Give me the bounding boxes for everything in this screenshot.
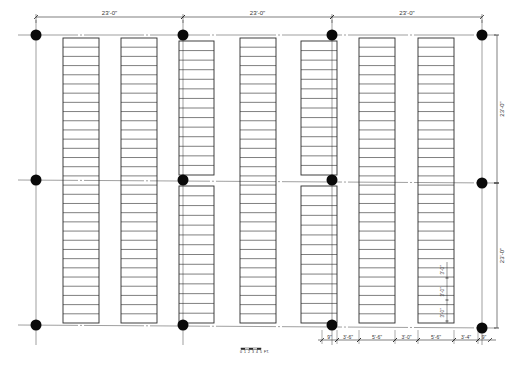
dimension-label-bottom: 3'-0" xyxy=(402,334,412,340)
column-marker xyxy=(178,175,189,186)
shelf-spacing-label: 3'-0" xyxy=(440,287,445,296)
dimension-label-bottom: 5'-6" xyxy=(372,334,382,340)
column-marker xyxy=(477,178,488,189)
stack-s5 xyxy=(301,186,337,323)
column-grid-lines xyxy=(18,20,496,345)
column-marker xyxy=(327,320,338,331)
scale-bar-unit: FT. xyxy=(264,350,269,354)
column-marker xyxy=(327,175,338,186)
column-marker xyxy=(31,175,42,186)
dimension-label-top: 23'-0" xyxy=(102,10,117,16)
scale-bar: 012345FT. xyxy=(240,348,269,354)
dimension-lines: 23'-0"23'-0"23'-0"23'-0"23'-0"9"3'-6"5'-… xyxy=(34,10,505,344)
stack-outline xyxy=(240,38,276,323)
stack-s4 xyxy=(240,38,276,323)
stack-outline xyxy=(359,38,395,323)
column-marker xyxy=(31,30,42,41)
dimension-label-bottom: 3'-6" xyxy=(343,334,353,340)
scale-bar-tick-label: 5 xyxy=(260,350,262,354)
column-marker xyxy=(178,30,189,41)
shelf-spacing-label: 3'-0" xyxy=(440,265,445,274)
scale-bar-tick-label: 2 xyxy=(248,350,250,354)
shelf-spacing-label: 3'-0" xyxy=(440,308,445,317)
dimension-label-top: 23'-0" xyxy=(399,10,414,16)
scale-bar-tick-label: 4 xyxy=(256,350,258,354)
dimension-label-right: 23'-0" xyxy=(499,248,505,263)
stack-s5 xyxy=(301,41,337,175)
scale-bar-tick-label: 0 xyxy=(240,350,242,354)
column-marker xyxy=(477,30,488,41)
dimension-label-bottom: 9" xyxy=(482,334,487,340)
dimension-label-right: 23'-0" xyxy=(499,101,505,116)
stack-s6 xyxy=(359,38,395,323)
scale-bar-tick-label: 3 xyxy=(252,350,254,354)
scale-bar-tick-label: 1 xyxy=(244,350,246,354)
stack-s3 xyxy=(179,41,214,175)
dimension-label-top: 23'-0" xyxy=(250,10,265,16)
column-marker xyxy=(178,320,189,331)
stack-floor-plan: 23'-0"23'-0"23'-0"23'-0"23'-0"9"3'-6"5'-… xyxy=(0,0,514,367)
dimension-label-bottom: 5'-6" xyxy=(431,334,441,340)
grid-line-horizontal xyxy=(18,180,496,183)
column-marker xyxy=(327,30,338,41)
grid-line-horizontal xyxy=(18,325,496,328)
stack-outline xyxy=(418,38,454,323)
dimension-label-bottom: 9" xyxy=(327,334,332,340)
stack-s7 xyxy=(418,38,454,323)
stack-s3 xyxy=(179,186,214,323)
dimension-label-bottom: 3'-4" xyxy=(461,334,471,340)
column-marker xyxy=(31,320,42,331)
